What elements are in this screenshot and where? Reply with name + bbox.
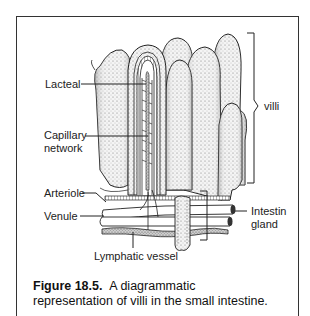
label-venule: Venule [44, 210, 78, 222]
sectioned-villus [128, 45, 166, 195]
villus-far-left [91, 50, 130, 188]
figure-number: Figure 18.5. [33, 279, 102, 293]
label-lacteal: Lacteal [45, 78, 80, 90]
label-capillary-line2: network [44, 142, 83, 154]
villi-brace [247, 33, 258, 183]
caption-line1: A diagrammatic [109, 279, 195, 293]
label-intestinal-gland-line1: Intestin [251, 205, 286, 217]
label-villi: villi [264, 100, 279, 112]
villus-mid-right [165, 60, 192, 190]
caption-line2: representation of villi in the small int… [33, 294, 268, 308]
intestinal-gland-drawing [175, 196, 190, 250]
label-lymphatic-vessel: Lymphatic vessel [94, 250, 178, 262]
label-intestinal-gland-line2: gland [251, 218, 278, 230]
villus-right-short [218, 103, 242, 200]
figure-caption: Figure 18.5. A diagrammatic representati… [33, 279, 303, 309]
label-arteriole: Arteriole [44, 187, 85, 199]
arteriole-leader [82, 193, 106, 202]
label-capillary-line1: Capillary [44, 129, 87, 141]
